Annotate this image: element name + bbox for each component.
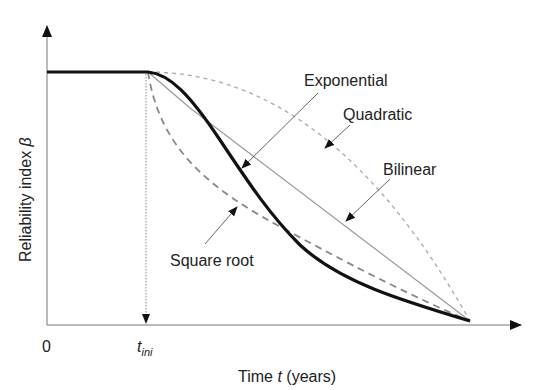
leader-exponential — [242, 93, 318, 168]
x-tick-origin: 0 — [42, 338, 51, 355]
leader-bilinear — [346, 179, 390, 221]
leader-quadratic — [325, 125, 350, 148]
label-exponential: Exponential — [304, 72, 388, 89]
y-axis-title: Reliability index β — [17, 137, 34, 262]
reliability-chart: Exponential Quadratic Bilinear Square ro… — [0, 0, 536, 390]
leader-square-root — [205, 207, 237, 244]
label-bilinear: Bilinear — [383, 161, 437, 178]
x-axis-title: Time t (years) — [238, 368, 336, 385]
label-quadratic: Quadratic — [343, 106, 412, 123]
label-square-root: Square root — [170, 252, 254, 269]
x-tick-t-ini: tini — [137, 338, 153, 358]
